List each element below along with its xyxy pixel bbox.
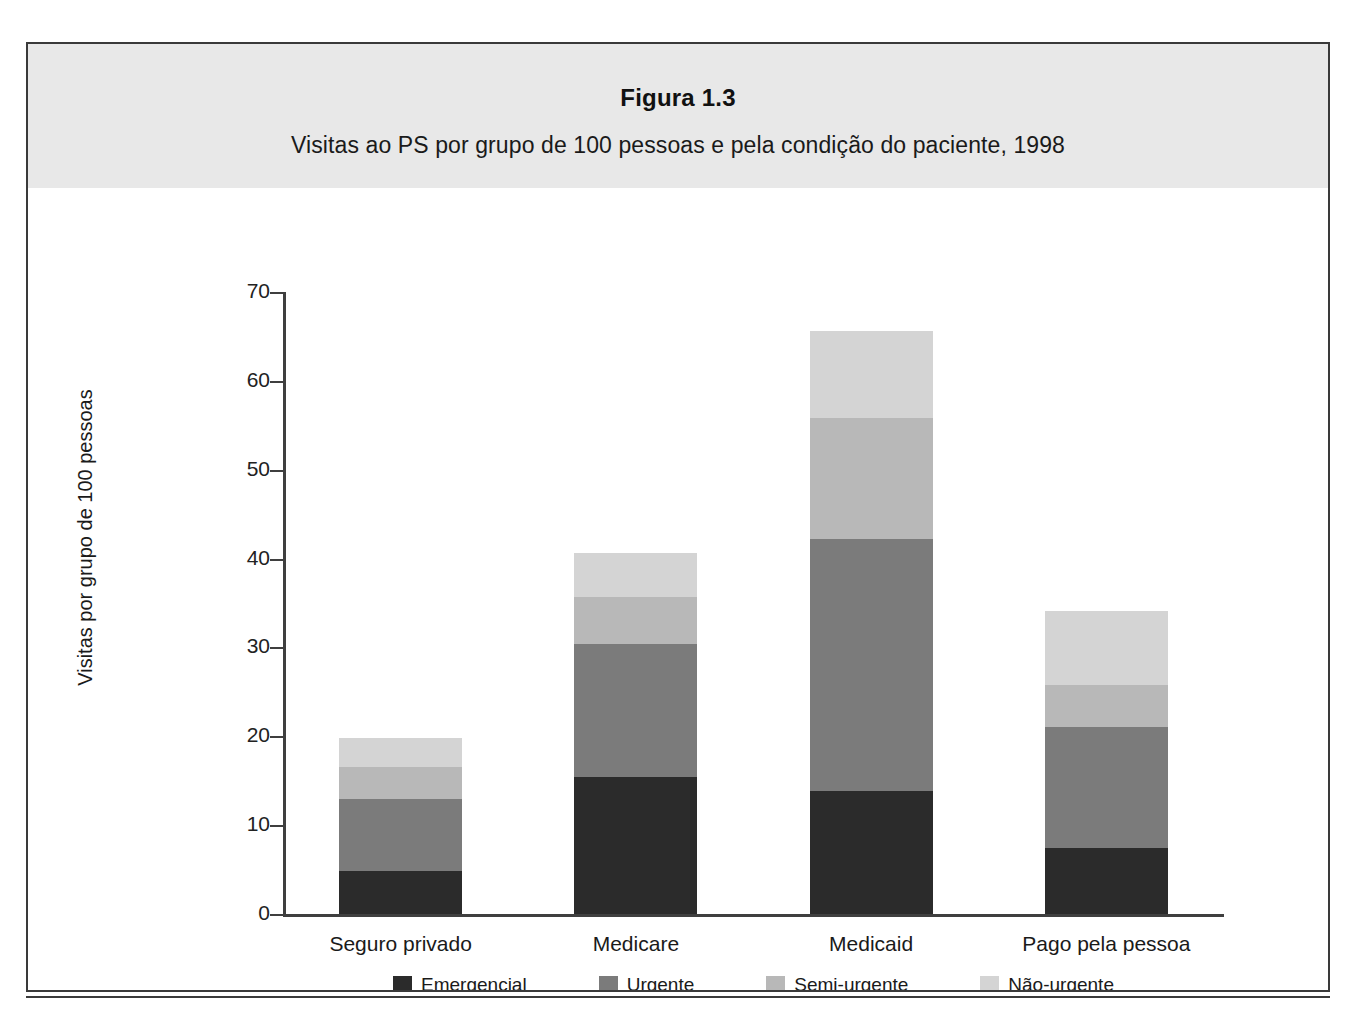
legend-label: Não-urgente [1008,974,1114,992]
bar-segment[interactable] [574,553,697,597]
x-tick-label: Pago pela pessoa [976,932,1236,956]
legend-swatch-icon [599,976,618,993]
bar-segment[interactable] [810,791,933,914]
bar-segment[interactable] [1045,611,1168,685]
x-axis-line [283,914,1224,917]
bar-segment[interactable] [810,331,933,418]
bar-stack[interactable] [810,331,933,914]
bar-segment[interactable] [339,738,462,766]
legend-swatch-icon [766,976,785,993]
bar-stack[interactable] [339,738,462,914]
legend-label: Emergencial [421,974,527,992]
bar-segment[interactable] [339,799,462,872]
figure-panel: Figura 1.3 Visitas ao PS por grupo de 10… [26,42,1330,992]
legend-item[interactable]: Não-urgente [980,974,1114,992]
bar-stack[interactable] [574,553,697,914]
legend-swatch-icon [980,976,999,993]
legend-item[interactable]: Emergencial [393,974,527,992]
x-tick-label: Medicare [506,932,766,956]
bar-segment[interactable] [1045,685,1168,727]
legend-label: Urgente [627,974,695,992]
chart-legend: EmergencialUrgenteSemi-urgenteNão-urgent… [283,974,1224,992]
bar-segment[interactable] [574,597,697,644]
bar-segment[interactable] [1045,727,1168,849]
bar-segment[interactable] [574,777,697,914]
bar-segment[interactable] [574,644,697,777]
figure-subtitle: Visitas ao PS por grupo de 100 pessoas e… [28,132,1328,159]
footer-rule [26,996,1330,998]
figure-header-band: Figura 1.3 Visitas ao PS por grupo de 10… [28,44,1328,189]
x-tick-label: Medicaid [741,932,1001,956]
legend-item[interactable]: Semi-urgente [766,974,908,992]
y-tick-mark [270,914,286,916]
bar-segment[interactable] [810,418,933,539]
bar-segment[interactable] [1045,848,1168,914]
bar-segment[interactable] [339,871,462,914]
bar-stack[interactable] [1045,611,1168,914]
bars-layer [28,188,1328,914]
chart-plot-area: Visitas por grupo de 100 pessoas 0102030… [28,188,1328,992]
x-tick-label: Seguro privado [271,932,531,956]
figure-number: Figura 1.3 [28,84,1328,112]
bar-segment[interactable] [339,767,462,799]
legend-item[interactable]: Urgente [599,974,695,992]
legend-swatch-icon [393,976,412,993]
legend-label: Semi-urgente [794,974,908,992]
bar-segment[interactable] [810,539,933,791]
